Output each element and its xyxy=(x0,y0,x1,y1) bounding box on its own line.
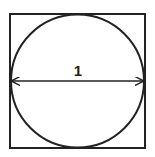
diagram-canvas: 1 xyxy=(0,0,155,157)
diameter-label: 1 xyxy=(74,62,82,79)
